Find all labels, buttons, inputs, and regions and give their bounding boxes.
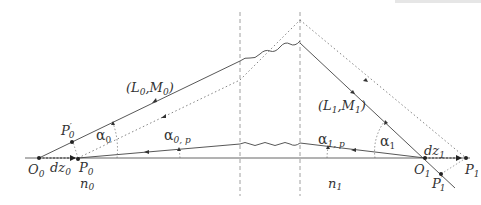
label-L0M0: (L0,M0) (126, 80, 174, 97)
perp-p0-p0prime (73, 142, 78, 158)
label-alpha0: α0 (96, 127, 111, 145)
label-n1: n1 (328, 176, 342, 192)
arrow-paraxial-0 (144, 150, 149, 154)
arrow-marginal-0 (152, 98, 157, 103)
label-P0prime: P′0 (60, 122, 75, 140)
label-O1: O1 (414, 162, 430, 179)
point-P1 (464, 156, 468, 160)
marginal-ray (39, 41, 455, 188)
label-dz1: dz1 (424, 143, 445, 160)
label-alpha1p: α1, p (318, 131, 345, 149)
label-alpha0p: α0, p (164, 127, 191, 145)
label-P0: P0 (78, 160, 94, 177)
point-O0 (37, 156, 41, 160)
arrow-paraxial-1 (351, 148, 356, 152)
point-P0prime (70, 140, 74, 144)
label-alpha1: α1 (380, 133, 395, 151)
label-P1: P1 (464, 162, 479, 179)
label-L1M1: (L1,M1) (318, 98, 366, 115)
perp-p1-p1prime (441, 158, 466, 174)
arrow-dotted-0 (161, 114, 166, 118)
label-dz0: dz0 (50, 160, 71, 177)
label-n0: n0 (80, 176, 94, 192)
label-O0: O0 (28, 162, 45, 179)
arrow-dotted-1 (363, 78, 368, 82)
optical-ray-diagram: O0 dz0 P0 n0 P′0 (L0,M0) α0 α0, p α1, p … (0, 0, 481, 205)
paraxial-ray (78, 143, 425, 159)
